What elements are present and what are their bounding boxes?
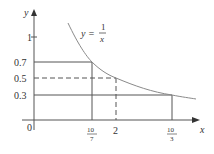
svg-text:y =: y =: [80, 28, 95, 39]
x-tick-label-10-7: 10 7: [87, 126, 97, 143]
y-tick-label-0.3: 0.3: [14, 90, 27, 101]
x-tick-label-10-3: 10 3: [167, 126, 177, 143]
y-tick-label-0.7: 0.7: [14, 57, 27, 68]
y-tick-label-1: 1: [27, 32, 32, 43]
svg-text:1: 1: [101, 22, 106, 32]
svg-text:x: x: [99, 34, 104, 44]
function-label: y = 1 x: [80, 22, 106, 44]
y-axis-arrow-icon: [31, 9, 37, 16]
axes: [22, 13, 196, 130]
origin-label: 0: [27, 122, 32, 133]
svg-text:7: 7: [90, 135, 94, 143]
svg-text:10: 10: [167, 126, 175, 134]
x-axis-arrow-icon: [192, 117, 200, 123]
x-axis-label: x: [199, 124, 205, 135]
y-axis-label: y: [23, 7, 29, 18]
y-tick-label-0.5: 0.5: [14, 73, 27, 84]
chart: y = 1 x y x 0 1 0.7 0.5 0.3 10 7 2 10 3: [0, 0, 214, 154]
x-tick-label-2: 2: [113, 125, 118, 136]
svg-text:3: 3: [170, 135, 174, 143]
svg-text:10: 10: [87, 126, 95, 134]
